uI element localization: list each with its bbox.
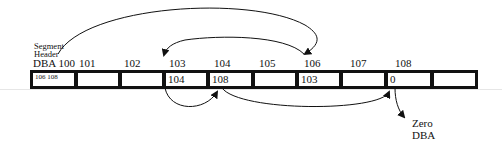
arrow-104-to-108 [222,88,389,107]
arrow-103-to-104 [165,88,217,107]
arrow-106-to-103 [164,37,304,55]
pointer-arrows [0,0,502,154]
arrow-108-to-zero [395,88,404,117]
arrow-100-to-106 [58,8,317,54]
